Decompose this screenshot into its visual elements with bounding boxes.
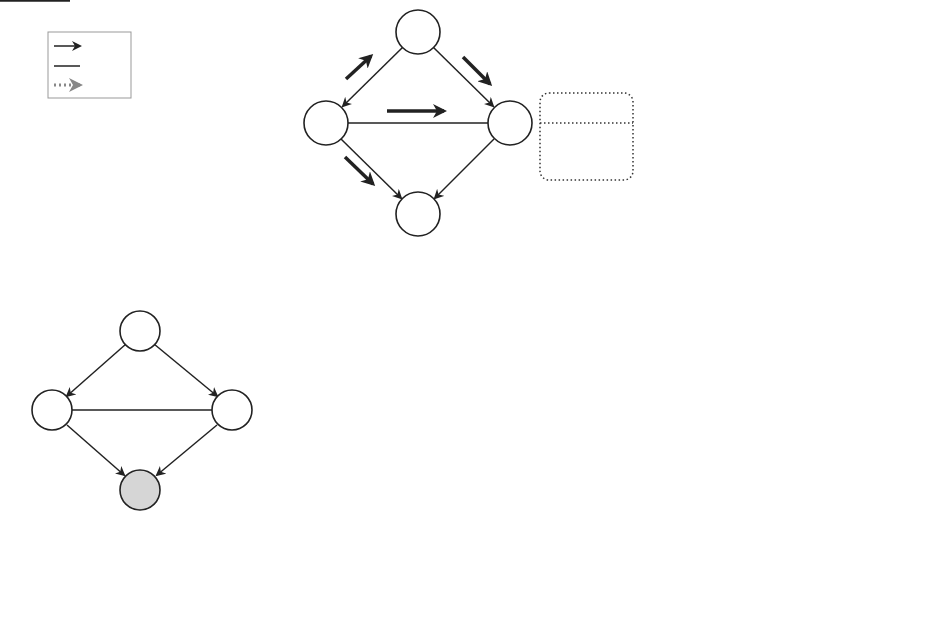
node-1 (32, 390, 72, 430)
edge-4-1 (67, 344, 126, 396)
legend-box (48, 32, 131, 98)
node-2 (488, 101, 532, 145)
edge-1-3 (67, 425, 124, 475)
edge-4-2 (154, 344, 217, 396)
edge-4-1 (343, 47, 403, 106)
edge-2-3 (157, 425, 217, 475)
announce-arrow-1-3 (345, 157, 373, 184)
legend (48, 32, 131, 98)
node-3-leaking (120, 470, 160, 510)
node-4 (396, 10, 440, 54)
figure-canvas (0, 0, 943, 643)
edge-2-3 (435, 139, 494, 198)
node-2 (212, 390, 252, 430)
edge-1-3 (341, 139, 401, 198)
node-1 (304, 101, 348, 145)
diagram-b (0, 0, 252, 510)
announce-arrow-1-4 (346, 56, 371, 79)
diagram-a (304, 10, 633, 236)
node-4 (120, 311, 160, 351)
routing-table-box (540, 93, 633, 180)
node-3 (396, 192, 440, 236)
